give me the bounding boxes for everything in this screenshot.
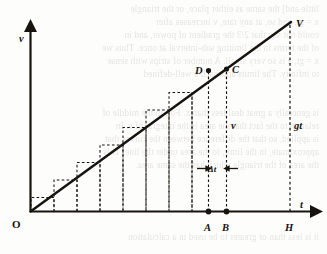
v-ordinate-label: v [231, 120, 236, 131]
gt-height-label: gt [293, 120, 303, 131]
velocity-time-figure: little and] the same as either place, or… [0, 0, 327, 254]
step-rect [169, 93, 192, 212]
point-B-dot [224, 209, 230, 215]
point-label-A: A [203, 222, 211, 233]
step-rect [100, 145, 123, 212]
step-rect [123, 128, 146, 212]
point-label-D: D [194, 65, 203, 76]
point-label-C: C [232, 64, 240, 75]
x-axis-label: t [300, 199, 304, 210]
delta-t-label: Δt [207, 164, 217, 174]
point-A-dot [206, 209, 212, 215]
point-C-dot [224, 66, 229, 71]
point-D-dot [206, 68, 211, 73]
velocity-line [31, 22, 292, 212]
origin-label: O [12, 218, 21, 230]
point-label-H: H [284, 222, 294, 233]
y-axis-label: v [19, 33, 24, 44]
figure-svg: v t O V D C A B H gt v Δt [0, 0, 327, 254]
point-label-V: V [296, 18, 304, 29]
point-label-B: B [221, 222, 229, 233]
